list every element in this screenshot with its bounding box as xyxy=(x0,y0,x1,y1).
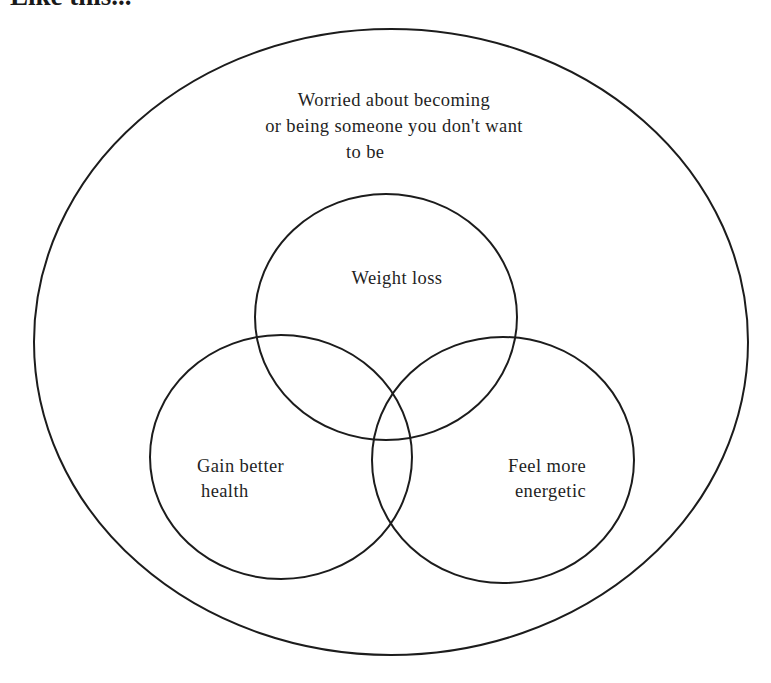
venn-diagram: Worried about becoming or being someone … xyxy=(0,0,771,683)
outer-label: Worried about becoming or being someone … xyxy=(265,90,523,162)
circle-gain-better-health-label: Gain better health xyxy=(197,456,284,501)
circle-weight-loss-label: Weight loss xyxy=(352,268,443,288)
circle-feel-more-energetic-label: Feel more energetic xyxy=(508,456,586,501)
outer-label-line-1: Worried about becoming xyxy=(298,90,490,110)
outer-label-line-2: or being someone you don't want xyxy=(265,116,523,136)
circle-feel-more-energetic-line-2: energetic xyxy=(515,481,586,501)
circle-feel-more-energetic-line-1: Feel more xyxy=(508,456,586,476)
outer-label-line-3: to be xyxy=(346,142,384,162)
circle-gain-better-health-line-2: health xyxy=(201,481,249,501)
circle-gain-better-health-line-1: Gain better xyxy=(197,456,284,476)
